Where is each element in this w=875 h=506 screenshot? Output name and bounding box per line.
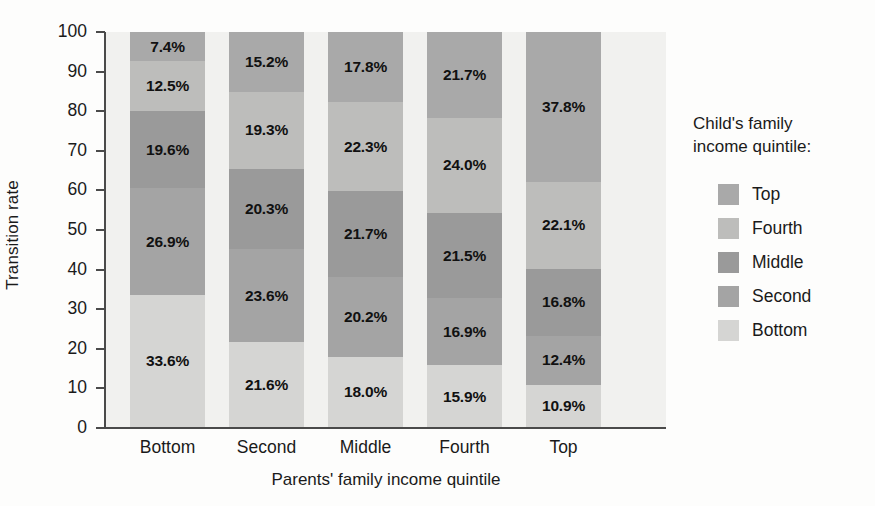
legend-items: TopFourthMiddleSecondBottom: [718, 177, 871, 347]
x-axis-line: [104, 427, 666, 429]
y-axis-tick-label: 10: [0, 377, 96, 398]
legend-item-bottom[interactable]: Bottom: [718, 313, 871, 347]
legend-label: Second: [752, 286, 811, 307]
bar-segment-fourth[interactable]: 12.5%: [130, 61, 205, 111]
stacked-bar-chart: Transition rate 0102030405060708090100 7…: [0, 0, 875, 506]
bar-segment-value-label: 12.4%: [542, 351, 585, 369]
legend-swatch-second: [718, 286, 739, 307]
y-axis-tick: [96, 31, 105, 33]
bar-segment-middle[interactable]: 16.8%: [526, 269, 601, 336]
legend-item-second[interactable]: Second: [718, 279, 871, 313]
bar-segment-middle[interactable]: 19.6%: [130, 111, 205, 189]
bar-second[interactable]: 15.2%19.3%20.3%23.6%21.6%: [229, 32, 304, 428]
bar-segment-top[interactable]: 21.7%: [427, 32, 502, 118]
bar-segment-value-label: 15.2%: [245, 53, 288, 71]
bar-segment-value-label: 15.9%: [443, 388, 486, 406]
bar-segment-bottom[interactable]: 21.6%: [229, 342, 304, 428]
bar-top[interactable]: 37.8%22.1%16.8%12.4%10.9%: [526, 32, 601, 428]
bar-segment-bottom[interactable]: 15.9%: [427, 365, 502, 428]
bar-segment-value-label: 21.7%: [344, 225, 387, 243]
y-axis-tick-label: 70: [0, 140, 96, 161]
x-axis-label-bottom: Bottom: [113, 437, 223, 458]
bar-segment-second[interactable]: 20.2%: [328, 277, 403, 357]
bar-segment-value-label: 24.0%: [443, 156, 486, 174]
y-axis-tick-label: 30: [0, 298, 96, 319]
y-axis-tick: [96, 348, 105, 350]
legend-item-top[interactable]: Top: [718, 177, 871, 211]
y-axis-tick-label: 0: [0, 417, 96, 438]
bar-segment-value-label: 16.8%: [542, 293, 585, 311]
y-axis-tick: [96, 308, 105, 310]
y-axis-tick-label: 100: [0, 21, 96, 42]
legend-swatch-top: [718, 184, 739, 205]
bar-segment-bottom[interactable]: 33.6%: [130, 295, 205, 428]
legend-label: Middle: [752, 252, 804, 273]
bar-segment-value-label: 33.6%: [146, 352, 189, 370]
y-axis-tick: [96, 150, 105, 152]
y-axis-tick: [96, 229, 105, 231]
y-axis-tick-label: 40: [0, 259, 96, 280]
x-axis-label-fourth: Fourth: [410, 437, 520, 458]
bar-segment-fourth[interactable]: 24.0%: [427, 118, 502, 213]
bar-segment-value-label: 18.0%: [344, 383, 387, 401]
legend: Child's family income quintile: TopFourt…: [693, 112, 871, 347]
bar-segment-middle[interactable]: 20.3%: [229, 169, 304, 249]
bar-segment-fourth[interactable]: 19.3%: [229, 92, 304, 168]
legend-label: Bottom: [752, 320, 807, 341]
bar-segment-second[interactable]: 12.4%: [526, 336, 601, 385]
bar-segment-second[interactable]: 26.9%: [130, 188, 205, 295]
bar-segment-value-label: 21.5%: [443, 247, 486, 265]
legend-swatch-fourth: [718, 218, 739, 239]
x-axis-label-middle: Middle: [311, 437, 421, 458]
bar-segment-fourth[interactable]: 22.3%: [328, 102, 403, 190]
bar-segment-value-label: 37.8%: [542, 98, 585, 116]
bar-segment-fourth[interactable]: 22.1%: [526, 182, 601, 270]
bar-segment-value-label: 7.4%: [150, 38, 185, 56]
bar-middle[interactable]: 17.8%22.3%21.7%20.2%18.0%: [328, 32, 403, 428]
x-axis-label-top: Top: [509, 437, 619, 458]
bar-segment-second[interactable]: 16.9%: [427, 298, 502, 365]
legend-swatch-bottom: [718, 320, 739, 341]
legend-item-middle[interactable]: Middle: [718, 245, 871, 279]
bar-fourth[interactable]: 21.7%24.0%21.5%16.9%15.9%: [427, 32, 502, 428]
legend-label: Top: [752, 184, 780, 205]
bar-segment-value-label: 23.6%: [245, 287, 288, 305]
bar-segment-value-label: 21.7%: [443, 66, 486, 84]
bar-segment-bottom[interactable]: 10.9%: [526, 385, 601, 428]
bar-segment-top[interactable]: 37.8%: [526, 32, 601, 182]
bar-segment-value-label: 19.6%: [146, 141, 189, 159]
y-axis-tick: [96, 387, 105, 389]
legend-title: Child's family income quintile:: [693, 112, 871, 158]
y-axis-tick: [96, 269, 105, 271]
bar-segment-top[interactable]: 17.8%: [328, 32, 403, 102]
plot-area: 7.4%12.5%19.6%26.9%33.6%15.2%19.3%20.3%2…: [106, 32, 666, 428]
bar-segment-value-label: 10.9%: [542, 397, 585, 415]
bar-segment-value-label: 26.9%: [146, 233, 189, 251]
y-axis-tick-label: 60: [0, 179, 96, 200]
y-axis-tick: [96, 71, 105, 73]
bar-segment-second[interactable]: 23.6%: [229, 249, 304, 342]
bar-segment-value-label: 22.1%: [542, 216, 585, 234]
bar-segment-value-label: 19.3%: [245, 121, 288, 139]
y-axis-tick: [96, 110, 105, 112]
bar-segment-value-label: 20.3%: [245, 200, 288, 218]
bar-segment-value-label: 16.9%: [443, 323, 486, 341]
legend-swatch-middle: [718, 252, 739, 273]
legend-item-fourth[interactable]: Fourth: [718, 211, 871, 245]
y-axis-tick-label: 20: [0, 338, 96, 359]
bar-segment-value-label: 20.2%: [344, 308, 387, 326]
x-axis-title: Parents' family income quintile: [106, 470, 666, 490]
bar-bottom[interactable]: 7.4%12.5%19.6%26.9%33.6%: [130, 32, 205, 428]
y-axis-tick-label: 90: [0, 61, 96, 82]
legend-label: Fourth: [752, 218, 803, 239]
bar-segment-middle[interactable]: 21.7%: [328, 191, 403, 277]
bar-segment-bottom[interactable]: 18.0%: [328, 357, 403, 428]
y-axis-tick-label: 80: [0, 100, 96, 121]
bar-segment-value-label: 21.6%: [245, 376, 288, 394]
bar-segment-top[interactable]: 15.2%: [229, 32, 304, 92]
bar-segment-value-label: 22.3%: [344, 138, 387, 156]
x-axis-label-second: Second: [212, 437, 322, 458]
bar-segment-value-label: 12.5%: [146, 77, 189, 95]
bar-segment-top[interactable]: 7.4%: [130, 32, 205, 61]
bar-segment-middle[interactable]: 21.5%: [427, 213, 502, 298]
